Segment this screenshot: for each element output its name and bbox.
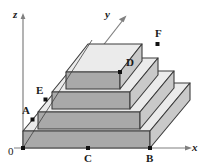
figure-canvas [0, 0, 207, 167]
tier-2-front-face [38, 112, 140, 129]
z-axis-arrow [21, 13, 26, 19]
point-label-C: C [84, 153, 92, 164]
point-marker-A [31, 118, 35, 122]
x-axis-label: x [192, 142, 198, 153]
x-axis-arrow [185, 146, 192, 151]
z-axis-label: z [13, 9, 17, 20]
point-marker-D [118, 70, 122, 74]
origin-label: 0 [8, 146, 14, 157]
tier-3-front-face [52, 92, 130, 109]
stepped-pyramid-figure: z y x 0 A E D F C B [0, 0, 207, 167]
point-label-F: F [155, 28, 162, 39]
y-axis-label: y [105, 9, 110, 20]
point-marker-F [156, 42, 160, 46]
point-label-E: E [36, 85, 43, 96]
point-marker-B [148, 146, 152, 150]
y-axis-arrow [119, 16, 127, 23]
tier-4-front-face [66, 72, 120, 89]
point-marker-O [21, 146, 25, 150]
point-marker-C [86, 146, 90, 150]
tier-1-front-face [23, 131, 150, 148]
point-label-D: D [126, 57, 134, 68]
point-label-A: A [22, 105, 30, 116]
point-marker-E [44, 98, 48, 102]
point-label-B: B [146, 153, 153, 164]
